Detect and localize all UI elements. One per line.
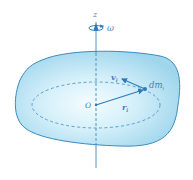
mass-element-label: dmi <box>149 80 165 91</box>
velocity-subscript: i <box>116 77 118 83</box>
z-axis-arrow-icon <box>94 23 99 30</box>
mass-symbol: dm <box>149 80 163 90</box>
diagram-canvas: z ω O ri vi dmi <box>0 0 193 180</box>
rigid-body-shape <box>15 51 179 146</box>
mass-element-point <box>143 87 147 91</box>
omega-label: ω <box>107 23 114 33</box>
rigid-body-rotation-diagram: z ω O ri vi dmi <box>0 0 193 180</box>
z-axis-label: z <box>92 10 98 19</box>
radius-subscript: i <box>126 107 128 113</box>
origin-label: O <box>85 101 91 110</box>
rotation-arrow-icon <box>100 25 105 28</box>
